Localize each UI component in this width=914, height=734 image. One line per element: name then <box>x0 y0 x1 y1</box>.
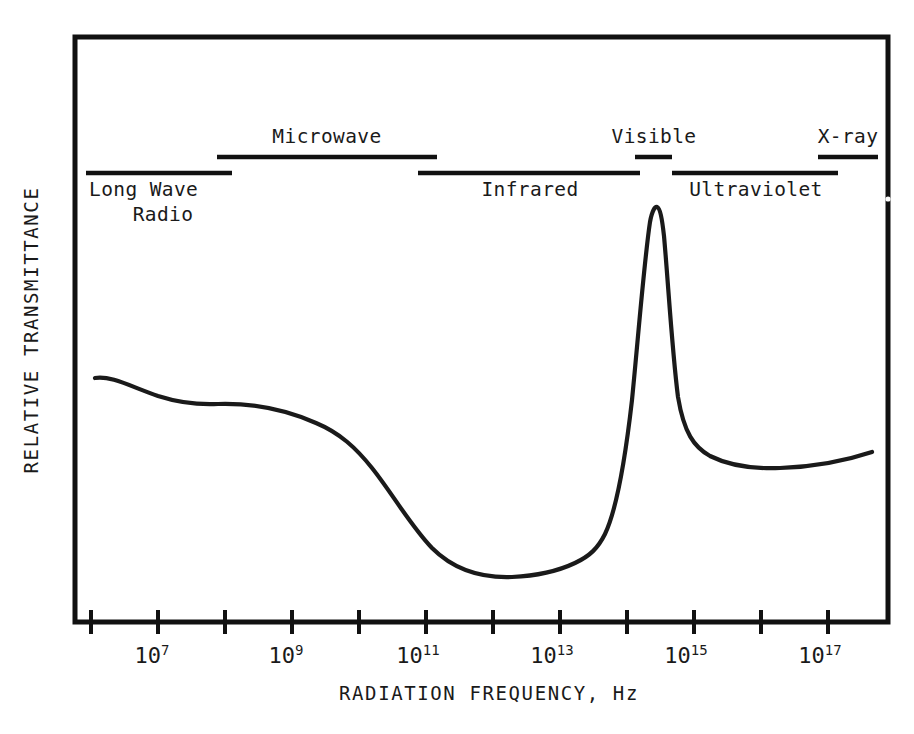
tick-label-1e11-exponent: 11 <box>423 642 440 658</box>
band-label-xray: X-ray <box>818 125 879 148</box>
tick-label-1e7-base: 10 <box>135 643 162 668</box>
spectrum-band-bars <box>86 157 878 173</box>
band-label-long-wave-radio-line1: Long Wave <box>89 178 198 201</box>
y-axis-title: RELATIVE TRANSMITTANCE <box>20 187 42 474</box>
tick-label-1e17-base: 10 <box>798 643 825 668</box>
tick-label-1e15: 1015 <box>664 642 707 668</box>
band-label-visible: Visible <box>612 125 697 148</box>
border-artifact <box>885 196 890 201</box>
x-axis-tick-labels: 107 109 1011 1013 1015 1017 <box>135 642 842 668</box>
plot-frame <box>75 37 888 622</box>
tick-label-1e17-exponent: 17 <box>825 642 842 658</box>
band-label-ultraviolet: Ultraviolet <box>689 178 823 201</box>
tick-label-1e15-base: 10 <box>664 643 691 668</box>
tick-label-1e17: 1017 <box>798 642 841 668</box>
tick-label-1e9-exponent: 9 <box>295 642 303 658</box>
chart-canvas: 107 109 1011 1013 1015 1017 RADIATION FR… <box>0 0 914 734</box>
transmittance-curve <box>95 207 872 577</box>
tick-label-1e9: 109 <box>269 642 304 668</box>
band-label-long-wave-radio-line2: Radio <box>133 203 194 226</box>
tick-label-1e13-base: 10 <box>530 643 557 668</box>
tick-label-1e13: 1013 <box>530 642 573 668</box>
spectrum-band-labels: Microwave Visible X-ray Long Wave Radio … <box>89 125 878 226</box>
band-label-microwave: Microwave <box>272 125 381 148</box>
tick-label-1e11-base: 10 <box>396 643 423 668</box>
x-axis-title: RADIATION FREQUENCY, Hz <box>339 682 639 704</box>
transmittance-figure: 107 109 1011 1013 1015 1017 RADIATION FR… <box>0 0 914 734</box>
tick-label-1e11: 1011 <box>396 642 439 668</box>
tick-label-1e7: 107 <box>135 642 170 668</box>
tick-label-1e9-base: 10 <box>269 643 296 668</box>
tick-label-1e15-exponent: 15 <box>691 642 708 658</box>
band-label-infrared: Infrared <box>481 178 578 201</box>
tick-label-1e7-exponent: 7 <box>161 642 169 658</box>
tick-label-1e13-exponent: 13 <box>557 642 574 658</box>
